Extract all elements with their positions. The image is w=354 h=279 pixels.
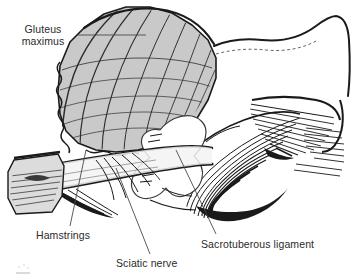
label-gluteus-maximus-line1: Gluteus — [25, 23, 62, 35]
anatomy-figure: Gluteus maximus Hamstrings Sciatic nerve… — [0, 0, 354, 279]
hamstring-origin-structure — [8, 152, 64, 214]
label-hamstrings: Hamstrings — [36, 229, 90, 241]
label-sacrotuberous-ligament: Sacrotuberous ligament — [201, 238, 314, 250]
label-sciatic-nerve: Sciatic nerve — [116, 257, 177, 269]
hamstring-block-outline — [8, 154, 64, 214]
label-gluteus-maximus-line2: maximus — [22, 35, 65, 47]
label-gluteus-maximus: Gluteus maximus — [10, 23, 76, 47]
